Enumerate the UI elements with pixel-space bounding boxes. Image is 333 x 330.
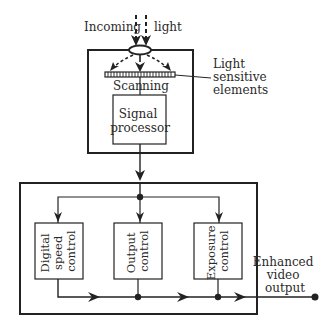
sensor-callout-label: Light sensitive elements: [213, 57, 270, 97]
light-sensitive-elements-bar: [105, 72, 175, 77]
incoming-label: Incoming: [84, 20, 141, 34]
distribution-bus: [58, 197, 219, 223]
ray-arrow-down: [135, 62, 145, 72]
lens-icon: [129, 46, 151, 55]
light-label: light: [154, 20, 182, 34]
junction-exposure: [215, 294, 221, 300]
ray-arrow-down-right: [162, 62, 171, 71]
sensor-stage: Light sensitive elements Scan ning Signa…: [88, 46, 270, 154]
digital-speed-control-block: Digital speed control: [35, 223, 83, 279]
enhanced-video-output-label: Enhanced video output: [253, 255, 317, 295]
camera-block-diagram: Incoming light: [0, 0, 333, 330]
output-control-block: Output control: [114, 223, 162, 279]
svg-text:Digital speed: Digital speed control: [38, 230, 78, 273]
lens-rays: [110, 55, 171, 72]
incoming-light: Incoming light: [84, 15, 182, 46]
signal-processor-label: Signal processor: [110, 107, 170, 135]
scanning-label-part1: Scan: [113, 79, 143, 93]
exposure-control-block: Exposure control: [194, 222, 242, 280]
junction-output: [135, 294, 141, 300]
svg-text:Output control: Output control: [124, 229, 151, 274]
svg-text:Exposure control: Exposure control: [204, 222, 231, 280]
output-terminal: [312, 294, 319, 301]
scanning-label-part2: ning: [142, 79, 169, 93]
